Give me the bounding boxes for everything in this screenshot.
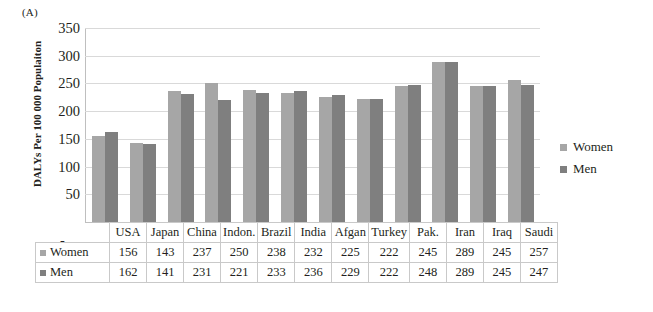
y-tick-label-150: 150 — [40, 132, 80, 147]
legend-item-men[interactable]: Men — [560, 158, 613, 180]
table-corner-cell — [36, 223, 110, 243]
table-cell-women-japan: 143 — [147, 243, 184, 263]
legend-label-men: Men — [573, 161, 597, 177]
bar-group-pak — [389, 28, 427, 222]
table-row-label: Men — [50, 265, 73, 279]
data-table: USAJapanChinaIndon.BrazilIndiaAfganTurke… — [35, 222, 558, 283]
table-cell-women-indon: 250 — [221, 243, 258, 263]
bar-men-turkey — [370, 99, 383, 222]
table-cell-men-brazil: 233 — [258, 263, 295, 283]
bar-women-pak — [395, 86, 408, 222]
table-row-header-men: Men — [36, 263, 110, 283]
table-cell-women-brazil: 238 — [258, 243, 295, 263]
bar-women-turkey — [357, 99, 370, 222]
table-cell-men-iraq: 245 — [483, 263, 520, 283]
bar-women-brazil — [243, 90, 256, 222]
y-tick-label-350: 350 — [40, 21, 80, 36]
table-cell-women-saudi: 257 — [520, 243, 557, 263]
bar-men-usa — [105, 132, 118, 222]
bar-men-iran — [445, 62, 458, 222]
bar-group-usa — [86, 28, 124, 222]
bar-group-japan — [124, 28, 162, 222]
table-column-header-pak: Pak. — [409, 223, 446, 243]
bar-group-turkey — [351, 28, 389, 222]
y-tick-label-200: 200 — [40, 104, 80, 119]
table-cell-men-turkey: 222 — [369, 263, 410, 283]
bar-group-india — [275, 28, 313, 222]
bar-group-saudi — [502, 28, 540, 222]
table-column-header-saudi: Saudi — [520, 223, 557, 243]
table-cell-women-pak: 245 — [409, 243, 446, 263]
y-tick-label-50: 50 — [40, 187, 80, 202]
table-cell-women-india: 232 — [295, 243, 332, 263]
table-column-header-usa: USA — [110, 223, 147, 243]
y-tick-label-100: 100 — [40, 160, 80, 175]
square-swatch-icon — [40, 270, 46, 276]
table-column-header-china: China — [184, 223, 221, 243]
table-column-header-india: India — [295, 223, 332, 243]
y-tick-label-250: 250 — [40, 76, 80, 91]
table-cell-men-japan: 141 — [147, 263, 184, 283]
table-cell-men-indon: 221 — [221, 263, 258, 283]
table-row-label: Women — [50, 245, 89, 259]
square-swatch-icon — [40, 250, 46, 256]
bar-women-japan — [130, 143, 143, 222]
legend-label-women: Women — [573, 139, 613, 155]
table-cell-men-usa: 162 — [110, 263, 147, 283]
bar-men-brazil — [256, 93, 269, 222]
bar-women-india — [281, 93, 294, 222]
table-cell-women-china: 237 — [184, 243, 221, 263]
bar-group-indon — [199, 28, 237, 222]
table-cell-men-pak: 248 — [409, 263, 446, 283]
bar-women-china — [168, 91, 181, 222]
bar-women-iran — [432, 62, 445, 222]
y-axis-tick-labels: 50100150200250300350 — [36, 28, 80, 222]
table-cell-men-iran: 289 — [446, 263, 483, 283]
table-cell-women-iran: 289 — [446, 243, 483, 263]
table-cell-men-china: 231 — [184, 263, 221, 283]
table-cell-men-afgan: 229 — [332, 263, 369, 283]
table-cell-men-india: 236 — [295, 263, 332, 283]
table-column-header-japan: Japan — [147, 223, 184, 243]
legend-item-women[interactable]: Women — [560, 136, 613, 158]
chart-legend: WomenMen — [560, 136, 613, 180]
table-cell-women-turkey: 222 — [369, 243, 410, 263]
table-row: Women15614323725023823222522224528924525… — [36, 243, 558, 263]
bar-men-indon — [218, 100, 231, 222]
table-column-header-iran: Iran — [446, 223, 483, 243]
table-cell-women-usa: 156 — [110, 243, 147, 263]
bar-men-japan — [143, 144, 156, 222]
square-swatch-icon — [560, 166, 567, 173]
table-column-header-turkey: Turkey — [369, 223, 410, 243]
bar-men-afgan — [332, 95, 345, 222]
bar-series-container — [86, 28, 540, 222]
bar-men-india — [294, 91, 307, 222]
table-column-header-afgan: Afgan — [332, 223, 369, 243]
bar-women-saudi — [508, 80, 521, 222]
bar-group-afgan — [313, 28, 351, 222]
bar-women-afgan — [319, 97, 332, 222]
bar-group-iraq — [464, 28, 502, 222]
table-cell-men-saudi: 247 — [520, 263, 557, 283]
table-column-header-indon: Indon. — [221, 223, 258, 243]
bar-men-saudi — [521, 85, 534, 222]
data-table-body: USAJapanChinaIndon.BrazilIndiaAfganTurke… — [36, 223, 558, 283]
bar-men-pak — [408, 85, 421, 222]
table-row-header-women: Women — [36, 243, 110, 263]
bar-group-china — [162, 28, 200, 222]
table-column-header-brazil: Brazil — [258, 223, 295, 243]
y-tick-label-300: 300 — [40, 49, 80, 64]
bar-women-indon — [205, 83, 218, 222]
table-column-header-iraq: Iraq — [483, 223, 520, 243]
table-cell-women-afgan: 225 — [332, 243, 369, 263]
table-header-row: USAJapanChinaIndon.BrazilIndiaAfganTurke… — [36, 223, 558, 243]
bar-men-iraq — [483, 86, 496, 222]
bar-women-usa — [92, 136, 105, 222]
chart-figure: (A) DALYs Per 100 000 Populaiton 5010015… — [0, 0, 653, 312]
bar-group-iran — [426, 28, 464, 222]
table-row: Men162141231221233236229222248289245247 — [36, 263, 558, 283]
table-cell-women-iraq: 245 — [483, 243, 520, 263]
bar-women-iraq — [470, 86, 483, 222]
square-swatch-icon — [560, 144, 567, 151]
bar-men-china — [181, 94, 194, 222]
